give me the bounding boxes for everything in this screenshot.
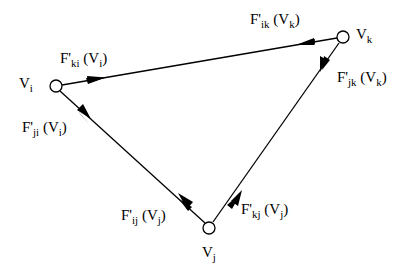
node-label-vk: Vk	[356, 27, 372, 45]
force-label-fki: F'ki (Vi)	[60, 51, 107, 69]
node-vj	[203, 222, 215, 234]
arrowhead-vi-vk	[87, 76, 106, 84]
arrowhead-vk-vi	[296, 38, 315, 45]
triangle-diagram	[0, 0, 398, 280]
node-vk	[337, 31, 349, 43]
node-vi	[50, 80, 62, 92]
arrowhead-vi-vj	[77, 104, 91, 119]
force-label-fjk: F'jk (Vk)	[337, 70, 387, 88]
force-label-fik: F'ik (Vk)	[250, 12, 300, 30]
node-label-vi: Vi	[19, 76, 33, 94]
force-label-fji: F'ji (Vi)	[22, 120, 67, 138]
force-label-fij: F'ij (Vj)	[121, 208, 166, 226]
node-label-vj: Vj	[202, 245, 216, 263]
force-label-fkj: F'kj (Vj)	[241, 202, 288, 220]
